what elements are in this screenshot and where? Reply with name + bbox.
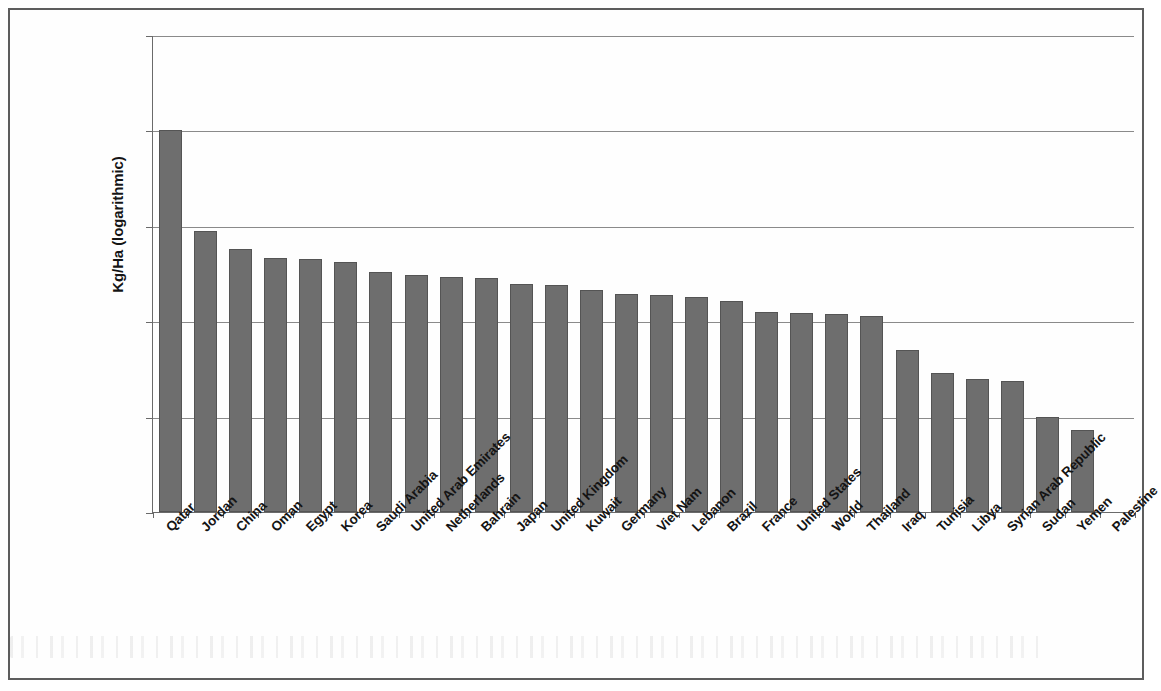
x-axis-category-label: Libya: [969, 500, 1004, 535]
x-axis-category-label: Iraq: [899, 507, 927, 535]
x-axis-category-label: Egypt: [303, 498, 340, 535]
x-axis-category-label: Jordan: [198, 493, 240, 535]
x-axis-category-label: Oman: [268, 497, 305, 534]
x-axis-category-label: Palestine: [1109, 483, 1161, 535]
x-axis-category-label: Korea: [338, 497, 375, 534]
x-axis-category-label: Yemen: [1074, 494, 1115, 535]
x-axis-category-label: Qatar: [163, 500, 198, 535]
x-axis-category-label: Tunisia: [934, 492, 977, 535]
x-axis-category-label: France: [759, 493, 800, 534]
